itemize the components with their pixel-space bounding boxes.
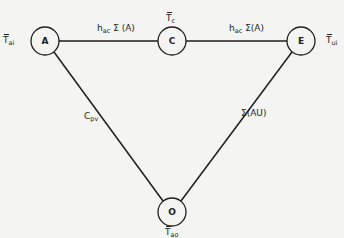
temp-label-e: Tui [326, 36, 337, 47]
temp-label-a: Tai [3, 36, 14, 47]
temp-label-c: Tc [166, 14, 175, 25]
node-a-label: A [42, 36, 49, 46]
temp-label-a-sub: ai [9, 39, 15, 47]
edge-label-a-o-sub: pv [90, 115, 98, 123]
temp-label-e-main: T [326, 36, 332, 45]
edge-label-a-c-tail: Σ (A) [110, 23, 135, 33]
temp-label-o-main: T [165, 228, 171, 237]
edge-label-e-o: Σ(AU) [241, 109, 266, 118]
temp-label-o-sub: ao [171, 231, 179, 238]
temp-label-o: Tao [165, 228, 178, 238]
node-o: O [158, 198, 186, 226]
thermal-network-diagram: A C E O [0, 0, 344, 238]
edge-label-a-c: hac Σ (A) [97, 24, 135, 35]
edge-label-c-e: hac Σ(A) [229, 24, 264, 35]
temp-label-c-main: T [166, 14, 172, 23]
node-e: E [287, 27, 315, 55]
node-c-label: C [169, 36, 176, 46]
node-e-label: E [298, 36, 304, 46]
temp-label-a-main: T [3, 36, 9, 45]
node-c: C [158, 27, 186, 55]
edge-label-a-o: Cpv [84, 112, 98, 123]
temp-label-e-sub: ui [332, 39, 338, 47]
edge-e-o [181, 52, 292, 201]
edge-label-c-e-tail: Σ(A) [242, 23, 264, 33]
node-o-label: O [168, 207, 176, 217]
edge-a-o [54, 52, 163, 201]
edge-label-e-o-main: Σ(AU) [241, 108, 266, 118]
temp-label-c-sub: c [172, 17, 176, 25]
node-a: A [31, 27, 59, 55]
